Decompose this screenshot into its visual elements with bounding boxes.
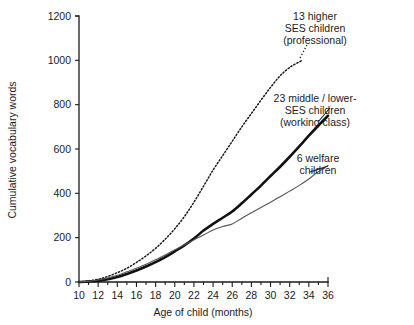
y-tick-label: 1000 <box>48 54 72 66</box>
annotation-group: 13 higherSES children(professional)23 mi… <box>274 10 357 176</box>
x-tick-label: 16 <box>131 289 143 301</box>
axes-group <box>75 16 328 282</box>
y-tick-label: 0 <box>65 276 71 288</box>
x-tick-label: 28 <box>246 289 258 301</box>
x-tick-label: 22 <box>188 289 200 301</box>
x-tick-label: 32 <box>284 289 296 301</box>
x-tick-label: 30 <box>265 289 277 301</box>
y-tick-label: 1200 <box>48 10 72 22</box>
series-line-2 <box>79 166 328 282</box>
annot-working-class-line: 23 middle / lower- <box>274 92 357 104</box>
x-tick-labels: 1012141618202224262830323436 <box>73 282 334 301</box>
axis-lines <box>79 16 328 282</box>
annot-welfare-line: 6 welfare <box>297 152 340 164</box>
annot-professional-line: SES children <box>285 22 346 34</box>
y-tick-label: 200 <box>53 231 71 243</box>
x-tick-label: 12 <box>92 289 104 301</box>
y-tick-label: 800 <box>53 98 71 110</box>
annot-professional-line: (professional) <box>283 34 347 46</box>
annot-working-class-line: SES children <box>285 104 346 116</box>
x-tick-label: 26 <box>226 289 238 301</box>
y-axis-title: Cumulative vocabulary words <box>6 81 18 218</box>
annot-professional: 13 higherSES children(professional) <box>283 10 347 58</box>
y-tick-label: 600 <box>53 143 71 155</box>
vocabulary-growth-chart: 020040060080010001200 101214161820222426… <box>0 0 414 325</box>
x-tick-label: 10 <box>73 289 85 301</box>
x-tick-label: 14 <box>111 289 123 301</box>
annot-working-class-line: (working class) <box>280 116 350 128</box>
x-tick-label: 36 <box>322 289 334 301</box>
annot-working-class: 23 middle / lower-SES children(working c… <box>274 92 357 128</box>
series-line-1 <box>79 116 328 282</box>
x-axis-title: Age of child (months) <box>153 306 252 318</box>
annot-professional-line: 13 higher <box>293 10 337 22</box>
annot-welfare-line: children <box>300 164 337 176</box>
y-tick-label: 400 <box>53 187 71 199</box>
y-tick-labels: 020040060080010001200 <box>48 10 79 288</box>
x-tick-label: 18 <box>150 289 162 301</box>
x-tick-label: 24 <box>207 289 219 301</box>
annot-welfare: 6 welfarechildren <box>297 152 340 176</box>
series-line-0 <box>79 60 302 282</box>
annot-professional-leader <box>300 45 307 58</box>
x-tick-label: 34 <box>303 289 315 301</box>
chart-canvas: 020040060080010001200 101214161820222426… <box>0 0 414 325</box>
x-tick-label: 20 <box>169 289 181 301</box>
